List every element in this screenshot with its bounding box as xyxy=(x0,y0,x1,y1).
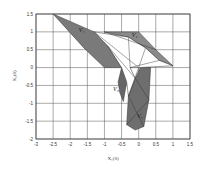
x-tick-label: -1 xyxy=(102,142,106,147)
region-label: V₂ xyxy=(132,32,138,38)
y-tick-label: 1 xyxy=(30,29,33,34)
x-tick-labels: -3-2.5-2-1.5-1-0.500.511.5 xyxy=(34,142,194,147)
y-tick-labels: 1.510.50-0.5-1-1.5-2 xyxy=(25,12,33,142)
x-tick-label: 0.5 xyxy=(153,142,160,147)
x-tick-label: -2.5 xyxy=(49,142,57,147)
y-tick-label: -1.5 xyxy=(25,119,33,124)
x-tick-label: -2 xyxy=(68,142,72,147)
y-tick-label: 0.5 xyxy=(27,47,34,52)
region-label: V₃ xyxy=(113,86,119,92)
x-tick-label: -3 xyxy=(34,142,38,147)
region-label: V₄ xyxy=(137,113,143,119)
x-tick-label: 1.5 xyxy=(187,142,194,147)
y-axis-label: X₂(0) xyxy=(12,70,17,82)
x-tick-label: 1 xyxy=(172,142,175,147)
x-axis-label: X₁(0) xyxy=(107,156,119,161)
x-tick-label: -1.5 xyxy=(83,142,91,147)
y-tick-label: -0.5 xyxy=(25,83,33,88)
region-chart: -3-2.5-2-1.5-1-0.500.511.5 1.510.50-0.5-… xyxy=(0,0,203,170)
y-tick-label: 1.5 xyxy=(27,12,34,17)
y-tick-label: -2 xyxy=(29,137,33,142)
y-tick-label: 0 xyxy=(30,65,33,70)
y-tick-label: -1 xyxy=(29,101,33,106)
x-tick-label: 0 xyxy=(137,142,140,147)
x-tick-label: -0.5 xyxy=(118,142,126,147)
regions xyxy=(53,14,173,130)
region-label: V₁ xyxy=(79,27,85,33)
